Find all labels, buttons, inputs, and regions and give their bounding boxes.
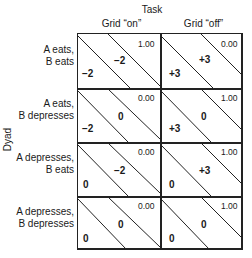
payoff-a: +3: [169, 68, 180, 79]
payoff-b: 0: [201, 111, 207, 122]
row-label-line1: A eats,: [18, 98, 74, 110]
matrix-cell: 0 −2 0.00: [78, 143, 160, 196]
payoff-b: −2: [114, 165, 125, 176]
row-label-3: A depresses, B depresses: [16, 206, 74, 230]
row-label-2: A depresses, B eats: [16, 152, 74, 176]
row-label-line2: B depresses: [16, 218, 74, 230]
matrix-cell: 0 0 1.00: [161, 197, 243, 249]
payoff-b: 0: [201, 219, 207, 230]
payoff-a: +3: [169, 123, 180, 134]
column-header-grid-off: Grid “off”: [162, 18, 245, 29]
payoff-a: 0: [83, 233, 89, 244]
matrix-cell: 0 +3 1.00: [161, 143, 243, 196]
column-header-grid-on: Grid “on”: [80, 18, 163, 29]
probability: 0.00: [138, 147, 155, 157]
matrix-cell: −2 0 0.00: [78, 89, 160, 142]
payoff-a: 0: [169, 233, 175, 244]
probability: 1.00: [221, 201, 238, 211]
probability: 1.00: [138, 39, 155, 49]
payoff-b: +3: [199, 165, 210, 176]
row-label-1: A eats, B depresses: [18, 98, 74, 122]
row-label-line2: B eats: [43, 56, 74, 68]
payoff-b: +3: [199, 54, 210, 65]
payoff-a: 0: [169, 179, 175, 190]
row-label-line2: B depresses: [18, 110, 74, 122]
payoff-a: 0: [83, 179, 89, 190]
probability: 0.00: [138, 201, 155, 211]
probability: 1.00: [221, 93, 238, 103]
task-header: Task: [0, 4, 252, 15]
payoff-b: −2: [114, 55, 125, 66]
row-label-line2: B eats: [16, 164, 74, 176]
row-label-line1: A depresses,: [16, 152, 74, 164]
payoff-a: −2: [82, 68, 93, 79]
probability: 1.00: [221, 147, 238, 157]
row-label-line1: A depresses,: [16, 206, 74, 218]
dyad-axis-label: Dyad: [2, 128, 13, 151]
payoff-matrix: −2 −2 1.00 +3 +3 0.00 −2 0 0.00 +3 0 1.0…: [77, 33, 243, 250]
payoff-a: −2: [82, 123, 93, 134]
matrix-cell: +3 +3 0.00: [161, 34, 243, 88]
probability: 0.00: [221, 39, 238, 49]
matrix-cell: −2 −2 1.00: [78, 34, 160, 88]
row-label-0: A eats, B eats: [43, 44, 74, 68]
payoff-b: 0: [118, 219, 124, 230]
row-label-line1: A eats,: [43, 44, 74, 56]
probability: 0.00: [138, 93, 155, 103]
matrix-cell: 0 0 0.00: [78, 197, 160, 249]
matrix-cell: +3 0 1.00: [161, 89, 243, 142]
payoff-b: 0: [118, 111, 124, 122]
